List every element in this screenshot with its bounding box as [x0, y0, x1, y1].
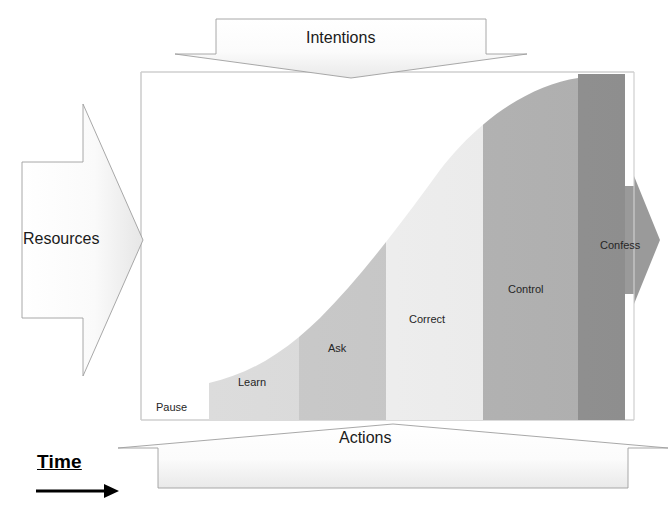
flow-label-intentions: Intentions: [306, 30, 375, 46]
stage-label-correct: Correct: [409, 314, 445, 325]
flow-arrow-intentions: [175, 19, 527, 78]
axis-label-time: Time: [37, 452, 82, 471]
flow-label-resources: Resources: [23, 231, 99, 247]
stage-label-confess: Confess: [600, 240, 640, 251]
stage-label-control: Control: [508, 284, 543, 295]
time-axis-arrow-icon: [36, 484, 119, 498]
stage-label-pause: Pause: [156, 402, 187, 413]
flow-label-actions: Actions: [339, 430, 391, 446]
stage-label-learn: Learn: [238, 377, 266, 388]
diagram-canvas: Intentions Resources Actions Time Pause …: [0, 0, 672, 507]
stage-label-ask: Ask: [328, 343, 346, 354]
flow-arrow-actions: [118, 424, 668, 488]
diagram-graphics: [0, 0, 672, 507]
